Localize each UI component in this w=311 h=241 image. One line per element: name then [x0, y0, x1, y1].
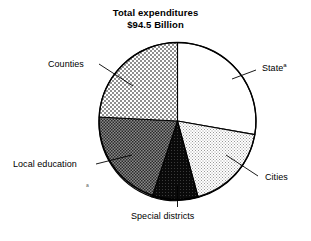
- label-state: Statea: [262, 63, 287, 73]
- label-special-districts: Special districts: [131, 211, 194, 221]
- footnote-marker: a: [86, 183, 89, 188]
- label-state-superscript: a: [283, 62, 286, 68]
- label-counties: Counties: [48, 59, 84, 69]
- pie-chart-svg: [0, 0, 311, 241]
- pie-slice-counties: [99, 43, 177, 122]
- label-state-text: State: [262, 63, 283, 73]
- pie-slice-state: [178, 43, 256, 135]
- label-cities: Cities: [265, 172, 288, 182]
- pie-chart-figure: Total expenditures $94.5 Billion: [0, 0, 311, 241]
- label-local-education: Local education: [13, 159, 77, 169]
